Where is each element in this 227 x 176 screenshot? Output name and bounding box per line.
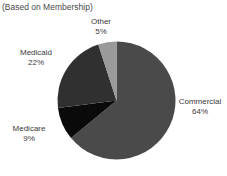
slice-label-commercial: Commercial 64% <box>174 97 226 116</box>
slice-label-medicare: Medicare 9% <box>4 124 54 143</box>
pie-slices <box>58 42 176 160</box>
pie-chart-screenshot: (Based on Membership) Other 5% Medicaid … <box>0 0 227 176</box>
slice-label-other-value: 5% <box>78 27 124 37</box>
slice-label-commercial-value: 64% <box>174 107 226 117</box>
slice-label-medicare-value: 9% <box>4 134 54 144</box>
slice-label-medicaid-value: 22% <box>11 58 61 68</box>
slice-label-other: Other 5% <box>78 17 124 36</box>
slice-label-medicaid: Medicaid 22% <box>11 48 61 67</box>
slice-label-medicaid-name: Medicaid <box>11 48 61 58</box>
slice-label-commercial-name: Commercial <box>174 97 226 107</box>
slice-label-medicare-name: Medicare <box>4 124 54 134</box>
slice-label-other-name: Other <box>78 17 124 27</box>
